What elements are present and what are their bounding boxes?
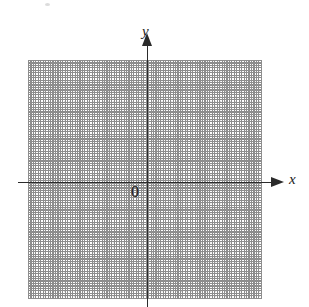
grid-minor-dots bbox=[28, 60, 262, 299]
grid-major-horizontal-lines bbox=[28, 60, 262, 299]
grid-area bbox=[28, 60, 262, 299]
x-axis-label: x bbox=[289, 172, 296, 187]
scan-artifact-speck bbox=[45, 3, 50, 6]
grid-major-vertical-lines bbox=[28, 60, 262, 299]
origin-label: 0 bbox=[131, 184, 139, 200]
y-axis-line bbox=[147, 46, 149, 307]
x-axis-arrowhead-icon bbox=[271, 177, 284, 187]
y-axis-label: y bbox=[142, 24, 149, 39]
coordinate-plane-figure: x y 0 bbox=[0, 0, 309, 307]
x-axis-line bbox=[18, 182, 272, 184]
